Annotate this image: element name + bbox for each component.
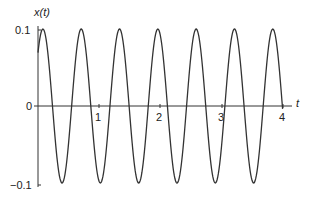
- y-tick-label-top: 0.1: [15, 24, 30, 36]
- x-tick-label-4: 4: [279, 111, 285, 123]
- x-tick-label-3: 3: [218, 111, 224, 123]
- x-tick-label-2: 2: [156, 111, 162, 123]
- y-axis-label: x(t): [34, 6, 50, 18]
- chart-plot-area: [0, 0, 314, 198]
- y-tick-label-bottom: −0.1: [10, 179, 32, 191]
- y-tick-label-zero: 0: [26, 100, 32, 112]
- x-axis-label: t: [296, 97, 299, 109]
- x-tick-label-1: 1: [95, 111, 101, 123]
